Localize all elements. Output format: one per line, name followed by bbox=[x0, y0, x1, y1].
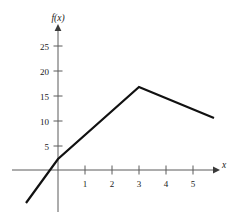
y-tick-label-25: 25 bbox=[40, 42, 50, 52]
x-tick-label-2: 2 bbox=[110, 179, 115, 189]
function-curve bbox=[26, 87, 214, 203]
x-tick-label-3: 3 bbox=[137, 179, 142, 189]
function-graph-figure: 25 20 15 10 5 1 2 3 4 5 f(x) x bbox=[0, 0, 231, 214]
x-tick-label-5: 5 bbox=[191, 179, 196, 189]
y-axis-arrow-icon bbox=[55, 24, 62, 31]
x-axis-label: x bbox=[221, 160, 227, 170]
y-axis-label: f(x) bbox=[51, 13, 64, 24]
x-axis-arrow-icon bbox=[213, 167, 220, 174]
y-tick-label-15: 15 bbox=[40, 92, 50, 102]
y-tick-label-10: 10 bbox=[40, 117, 50, 127]
y-tick-label-20: 20 bbox=[40, 67, 50, 77]
y-tick-label-5: 5 bbox=[45, 142, 50, 152]
x-tick-label-4: 4 bbox=[164, 179, 169, 189]
plot-area: 25 20 15 10 5 1 2 3 4 5 f(x) x bbox=[0, 0, 231, 214]
x-tick-label-1: 1 bbox=[83, 179, 88, 189]
